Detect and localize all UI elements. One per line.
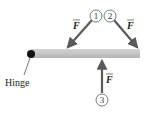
hinge-pivot [27, 50, 35, 58]
force-1-arrow [68, 20, 92, 47]
hinge-label: Hinge [5, 77, 30, 88]
rod [31, 49, 140, 58]
hinge-leader-line [24, 58, 30, 75]
force-3-number: 3 [100, 95, 105, 105]
force-1-symbol: F [72, 20, 80, 31]
force-2-symbol: F [126, 20, 134, 31]
hinge-rod-diagram: Hinge 1 F 2 F 3 F [0, 0, 147, 117]
force-2-number: 2 [108, 11, 113, 21]
force-3-symbol: F [105, 74, 113, 85]
force-1-number: 1 [94, 11, 99, 21]
